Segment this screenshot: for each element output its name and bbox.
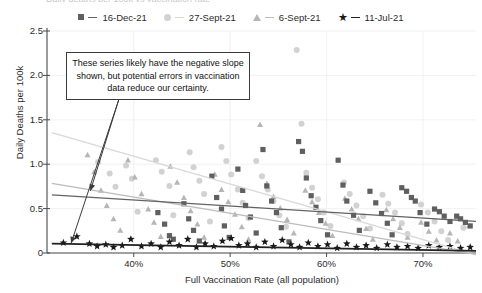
- data-point-star: [373, 244, 381, 251]
- data-point-circle: [166, 183, 172, 189]
- data-point-square: [432, 206, 437, 211]
- data-point-triangle: [309, 199, 315, 205]
- data-point-circle: [123, 163, 129, 169]
- data-point-square: [309, 193, 314, 198]
- data-point-square: [254, 230, 259, 235]
- data-point-circle: [191, 164, 197, 170]
- data-point-star: [60, 239, 68, 246]
- series-6-sept-21: [84, 122, 472, 244]
- data-point-square: [373, 200, 378, 205]
- data-point-square: [437, 209, 442, 214]
- data-point-circle: [201, 191, 207, 197]
- data-point-square: [269, 198, 274, 203]
- data-point-circle: [112, 184, 118, 190]
- data-point-triangle: [245, 236, 251, 242]
- data-point-circle: [107, 171, 113, 177]
- data-point-circle: [460, 225, 466, 231]
- data-point-triangle: [181, 194, 187, 200]
- data-point-circle: [196, 178, 202, 184]
- data-point-triangle: [111, 216, 117, 222]
- data-point-square: [399, 185, 404, 190]
- data-point-square: [417, 210, 422, 215]
- data-point-star: [93, 242, 101, 249]
- data-point-triangle: [194, 221, 200, 227]
- y-axis-title: Daily Deaths per 100k: [14, 33, 25, 193]
- data-point-star: [157, 243, 165, 250]
- data-point-star: [278, 236, 286, 243]
- data-point-square: [191, 228, 196, 233]
- data-point-square: [424, 222, 429, 227]
- data-point-square: [304, 175, 309, 180]
- data-point-triangle: [117, 227, 123, 233]
- data-point-square: [296, 139, 301, 144]
- data-point-triangle: [218, 186, 224, 192]
- data-point-triangle: [302, 187, 308, 193]
- data-point-square: [442, 214, 447, 219]
- data-point-square: [357, 228, 362, 233]
- x-tick-label: 40%: [114, 258, 154, 269]
- data-point-circle: [170, 212, 176, 218]
- data-point-circle: [309, 185, 315, 191]
- chart-container: Daily deaths per 100k vs vaccination rat…: [0, 0, 482, 293]
- data-point-star: [384, 241, 392, 248]
- data-point-square: [367, 189, 372, 194]
- data-point-triangle: [284, 217, 290, 223]
- data-point-triangle: [151, 219, 157, 225]
- data-point-circle: [425, 210, 431, 216]
- x-tick-label: 70%: [403, 258, 443, 269]
- data-point-square: [235, 166, 240, 171]
- data-point-triangle: [291, 230, 297, 236]
- annotation-arrows: [70, 99, 119, 243]
- data-point-circle: [392, 210, 398, 216]
- data-point-triangle: [201, 234, 207, 240]
- y-tick-label: 0: [19, 247, 43, 258]
- data-point-square: [413, 198, 418, 203]
- data-point-triangle: [104, 202, 110, 208]
- data-point-circle: [294, 47, 300, 53]
- data-point-circle: [418, 202, 424, 208]
- data-point-circle: [135, 209, 141, 215]
- data-point-circle: [259, 173, 265, 179]
- scatter-plot-area: [0, 0, 482, 293]
- data-point-square: [222, 223, 227, 228]
- data-point-circle: [379, 192, 385, 198]
- x-tick-label: 60%: [307, 258, 347, 269]
- data-point-circle: [218, 144, 224, 150]
- data-point-square: [336, 158, 341, 163]
- data-point-star: [219, 237, 227, 244]
- data-point-circle: [159, 169, 165, 175]
- data-point-triangle: [257, 122, 263, 128]
- data-point-star: [270, 242, 278, 249]
- data-point-triangle: [125, 157, 131, 163]
- data-point-star: [296, 243, 304, 250]
- annotation-arrow-head-0: [70, 236, 76, 243]
- data-point-square: [340, 182, 345, 187]
- data-point-circle: [303, 170, 309, 176]
- data-point-circle: [253, 158, 259, 164]
- data-point-circle: [299, 121, 305, 127]
- data-point-square: [279, 225, 284, 230]
- data-point-star: [86, 240, 94, 247]
- data-point-triangle: [433, 237, 439, 243]
- data-point-triangle: [174, 179, 180, 185]
- data-point-star: [362, 241, 370, 248]
- data-point-square: [264, 183, 269, 188]
- data-point-square: [197, 238, 202, 243]
- y-tick-label: 0.5: [19, 203, 43, 214]
- data-point-circle: [327, 223, 333, 229]
- annotation-callout: These series likely have the negative sl…: [66, 52, 250, 100]
- data-point-circle: [438, 228, 444, 234]
- data-point-square: [155, 210, 160, 215]
- data-point-square: [214, 195, 219, 200]
- data-point-square: [186, 216, 191, 221]
- data-point-circle: [315, 196, 321, 202]
- data-point-square: [390, 232, 395, 237]
- annotation-text: These series likely have the negative sl…: [72, 58, 244, 93]
- data-point-square: [260, 147, 265, 152]
- series-11-jul-21: [60, 233, 474, 252]
- data-point-star: [304, 239, 312, 246]
- data-point-star: [324, 241, 332, 248]
- x-axis-title: Full Vaccination Rate (all population): [47, 274, 477, 285]
- data-point-circle: [223, 158, 229, 164]
- data-point-circle: [187, 149, 193, 155]
